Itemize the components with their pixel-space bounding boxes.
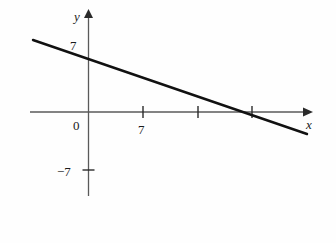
graph-figure: y x 0 7 −7 7 (0, 0, 336, 243)
y-tick-label-minus-7: −7 (57, 164, 71, 179)
origin-label: 0 (73, 118, 80, 133)
x-axis (30, 108, 313, 117)
y-axis (84, 9, 93, 196)
x-axis-label: x (305, 117, 312, 132)
y-tick-label-7: 7 (70, 38, 77, 53)
y-axis-arrowhead (84, 9, 93, 18)
x-tick-label-7: 7 (138, 122, 145, 137)
y-axis-label: y (72, 9, 80, 24)
coordinate-plane: y x 0 7 −7 7 (0, 0, 336, 243)
x-axis-arrowhead (303, 108, 313, 117)
